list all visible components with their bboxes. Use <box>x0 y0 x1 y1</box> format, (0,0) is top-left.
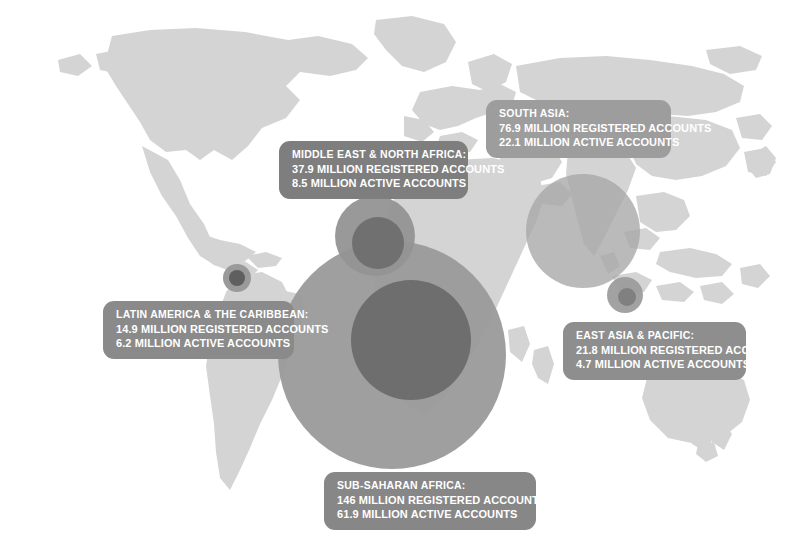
callout-title-sub-saharan-africa: SUB-SAHARAN AFRICA: <box>337 479 523 493</box>
callout-east-asia-pacific[interactable]: EAST ASIA & PACIFIC: 21.8 MILLION REGIST… <box>563 322 746 380</box>
callout-title-latin-america: LATIN AMERICA & THE CARIBBEAN: <box>116 308 281 322</box>
callout-active-mena: 8.5 MILLION ACTIVE ACCOUNTS <box>292 176 455 191</box>
callout-title-east-asia-pacific: EAST ASIA & PACIFIC: <box>576 329 733 343</box>
callout-registered-east-asia-pacific: 21.8 MILLION REGISTERED ACCOUNTS <box>576 343 733 358</box>
callout-active-sub-saharan-africa: 61.9 MILLION ACTIVE ACCOUNTS <box>337 507 523 522</box>
callout-active-south-asia: 22.1 MILLION ACTIVE ACCOUNTS <box>499 135 658 150</box>
callout-registered-south-asia: 76.9 MILLION REGISTERED ACCOUNTS <box>499 121 658 136</box>
callout-active-latin-america: 6.2 MILLION ACTIVE ACCOUNTS <box>116 336 281 351</box>
bubble-layer <box>0 0 797 546</box>
bubble-active-east-asia-pacific <box>618 288 636 306</box>
callout-middle-east-north-africa[interactable]: MIDDLE EAST & NORTH AFRICA: 37.9 MILLION… <box>279 141 468 199</box>
bubble-active-latin-america <box>229 270 245 286</box>
infographic-canvas: MIDDLE EAST & NORTH AFRICA: 37.9 MILLION… <box>0 0 797 546</box>
bubble-active-mena <box>352 217 404 269</box>
callout-active-east-asia-pacific: 4.7 MILLION ACTIVE ACCOUNTS <box>576 357 733 372</box>
callout-title-south-asia: SOUTH ASIA: <box>499 107 658 121</box>
callout-title-mena: MIDDLE EAST & NORTH AFRICA: <box>292 148 455 162</box>
bubble-active-sub-saharan-africa <box>351 280 471 400</box>
callout-registered-mena: 37.9 MILLION REGISTERED ACCOUNTS <box>292 162 455 177</box>
bubble-registered-south-asia <box>526 174 640 288</box>
callout-latin-america-caribbean[interactable]: LATIN AMERICA & THE CARIBBEAN: 14.9 MILL… <box>103 301 294 359</box>
callout-registered-sub-saharan-africa: 146 MILLION REGISTERED ACCOUNTS <box>337 493 523 508</box>
callout-registered-latin-america: 14.9 MILLION REGISTERED ACCOUNTS <box>116 322 281 337</box>
callout-sub-saharan-africa[interactable]: SUB-SAHARAN AFRICA: 146 MILLION REGISTER… <box>324 472 536 530</box>
callout-south-asia[interactable]: SOUTH ASIA: 76.9 MILLION REGISTERED ACCO… <box>486 100 671 158</box>
